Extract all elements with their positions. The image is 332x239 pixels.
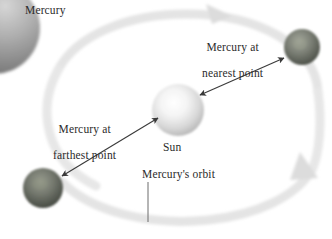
label-sun: Sun [163, 141, 181, 154]
label-corner-planet: Mercury [25, 4, 66, 17]
label-mercury-nearest: Mercury at nearest point [190, 28, 263, 93]
label-mercury-orbit: Mercury's orbit [142, 168, 215, 181]
label-mercury-farthest-line1: Mercury at [59, 123, 111, 135]
mercury-orbit-diagram: Mercury Mercury at nearest point Mercury… [0, 0, 332, 239]
mercury-nearest-body [284, 29, 320, 65]
label-mercury-nearest-line1: Mercury at [206, 41, 258, 53]
label-mercury-nearest-line2: nearest point [202, 67, 263, 79]
label-mercury-farthest: Mercury at farthest point [41, 110, 116, 175]
label-mercury-farthest-line2: farthest point [53, 149, 116, 161]
